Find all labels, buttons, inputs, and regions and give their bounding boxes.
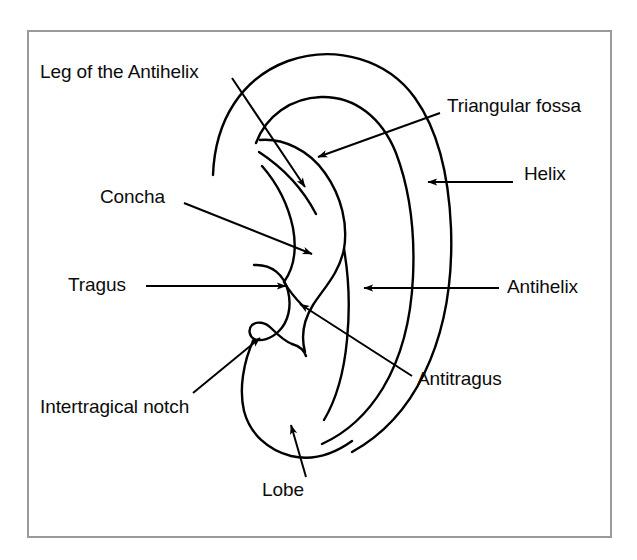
label-leg-of-the-antihelix: Leg of the Antihelix — [40, 62, 199, 81]
label-triangular-fossa: Triangular fossa — [447, 96, 581, 115]
label-antitragus: Antitragus — [417, 369, 502, 388]
label-helix: Helix — [524, 164, 566, 183]
label-concha: Concha — [100, 187, 165, 206]
label-tragus: Tragus — [68, 275, 126, 294]
label-lobe: Lobe — [262, 480, 304, 499]
label-antihelix: Antihelix — [507, 277, 578, 296]
ear-anatomy-figure: Leg of the Antihelix Triangular fossa He… — [0, 0, 637, 560]
label-intertragical-notch: Intertragical notch — [40, 397, 189, 416]
